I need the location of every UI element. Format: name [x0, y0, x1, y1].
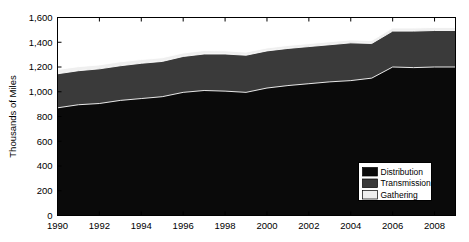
x-tick-label: 2006 [382, 220, 403, 231]
y-tick-label: 1,200 [29, 61, 53, 72]
x-tick-label: 1994 [131, 220, 152, 231]
x-tick-label: 2004 [340, 220, 361, 231]
x-tick-label: 1998 [215, 220, 236, 231]
chart-container: 02004006008001,0001,2001,4001,600 199019… [0, 0, 469, 242]
y-tick-label: 200 [37, 185, 53, 196]
x-tick-label: 2000 [256, 220, 277, 231]
legend-swatch-distribution [363, 168, 378, 177]
legend-label-transmission: Transmission [381, 178, 431, 188]
x-tick-label: 1990 [47, 220, 68, 231]
y-tick-label: 1,000 [29, 86, 53, 97]
y-axis-title: Thousands of Miles [7, 75, 18, 158]
x-tick-label: 1992 [89, 220, 110, 231]
y-tick-label: 1,400 [29, 37, 53, 48]
legend-swatch-gathering [363, 191, 378, 200]
x-tick-label: 2002 [298, 220, 319, 231]
legend-label-gathering: Gathering [381, 190, 419, 200]
x-tick-label: 1996 [173, 220, 194, 231]
legend-swatch-transmission [363, 179, 378, 188]
stacked-area-chart: 02004006008001,0001,2001,4001,600 199019… [0, 0, 469, 242]
y-tick-label: 600 [37, 136, 53, 147]
y-tick-label: 1,600 [29, 12, 53, 23]
chart-legend: DistributionTransmissionGathering [359, 163, 432, 201]
y-tick-label: 800 [37, 111, 53, 122]
y-tick-label: 400 [37, 160, 53, 171]
legend-label-distribution: Distribution [381, 167, 424, 177]
x-tick-label: 2008 [424, 220, 445, 231]
